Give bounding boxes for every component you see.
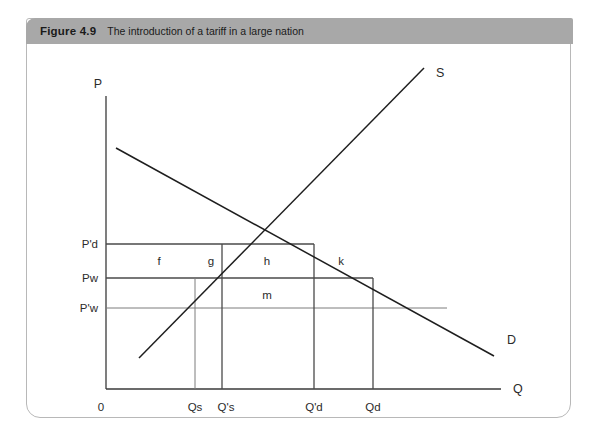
quantity-label-qs-prime: Q's [218, 401, 235, 413]
quantity-label-qd-prime: Q'd [305, 401, 323, 413]
price-label-pd-prime: P'd [82, 238, 98, 250]
area-label-g: g [208, 255, 214, 267]
figure-card: Figure 4.9 The introduction of a tariff … [26, 18, 571, 418]
origin-label: 0 [98, 401, 104, 413]
area-label-f: f [157, 255, 161, 267]
supply-curve [139, 68, 424, 358]
price-label-pw-prime: P'w [80, 302, 99, 314]
quantity-label-qs: Qs [188, 401, 203, 413]
demand-curve [116, 148, 494, 356]
demand-curve-label: D [507, 333, 516, 347]
price-label-pw: Pw [82, 272, 99, 284]
quantity-label-qd: Qd [365, 401, 380, 413]
y-axis-label: P [94, 77, 102, 91]
area-label-k: k [338, 255, 344, 267]
area-label-h: h [264, 255, 270, 267]
tariff-diagram: P Q 0 S D P'd Pw P'w Qs Q's Q'd Qd f g h [27, 19, 572, 419]
area-label-m: m [262, 289, 272, 301]
supply-curve-label: S [436, 66, 444, 80]
x-axis-label: Q [513, 382, 523, 396]
